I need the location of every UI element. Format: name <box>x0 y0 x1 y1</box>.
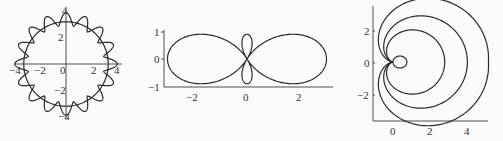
plot-1-ytick: −2 <box>54 84 66 96</box>
plot-1-xtick: 4 <box>114 64 120 76</box>
plot-3-loop-2 <box>384 16 468 108</box>
plot-2-ytick: −1 <box>148 81 160 93</box>
plot-1-ytick: 4 <box>62 4 68 16</box>
plot-2-ytick: 0 <box>154 53 160 65</box>
plot-3-xtick: 0 <box>390 125 396 137</box>
plot-2-xtick: −2 <box>186 91 198 103</box>
plot-1-polar-scallop: −4 −2 0 2 4 4 2 −2 −4 <box>9 4 122 122</box>
plot-1-xtick: 2 <box>91 64 97 76</box>
plot-2-ytick: 1 <box>154 26 160 38</box>
plot-3-inner-loop <box>393 56 407 68</box>
plot-3-xtick: 2 <box>427 125 433 137</box>
plot-1-xtick: −2 <box>34 64 46 76</box>
plot-3-nested-loops: 2 0 −2 0 2 4 <box>357 0 489 137</box>
plot-2-xtick: 2 <box>296 91 302 103</box>
plot-1-ytick: 2 <box>58 31 64 43</box>
plot-1-xtick: −4 <box>9 64 21 76</box>
plot-2-curve <box>168 34 327 84</box>
plot-1-ytick: −4 <box>58 110 70 122</box>
plot-3-ytick: 2 <box>364 25 370 37</box>
plot-2-figure-eight: 1 0 −1 −2 0 2 <box>148 26 333 103</box>
plot-1-xtick: 0 <box>60 64 66 76</box>
plot-3-ytick: 0 <box>364 57 370 69</box>
figure: −4 −2 0 2 4 4 2 −2 −4 1 0 −1 −2 0 2 2 0 … <box>0 0 503 141</box>
plot-3-loop-1 <box>387 30 445 94</box>
plot-3-ytick: −2 <box>357 89 369 101</box>
plot-3-xtick: 4 <box>464 125 470 137</box>
plot-2-xtick: 0 <box>243 91 249 103</box>
